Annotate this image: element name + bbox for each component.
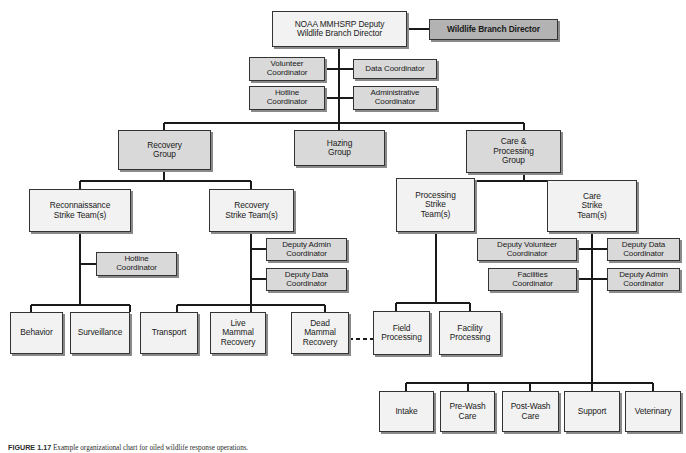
node-label: Recovery Group (147, 141, 182, 160)
node-data-coordinator[interactable]: Data Coordinator (353, 59, 437, 79)
node-deputy-admin-coordinator-care[interactable]: Deputy Admin Coordinator (607, 268, 680, 291)
node-label: Deputy Admin Coordinator (619, 271, 668, 289)
node-label: Care Strike Team(s) (577, 192, 607, 220)
node-facilities-coordinator[interactable]: Facilities Coordinator (488, 268, 577, 291)
node-label: Veterinary (635, 407, 672, 416)
figure-caption-text: Example organizational chart for oiled w… (51, 444, 248, 452)
node-deputy-data-coordinator-recovery[interactable]: Deputy Data Coordinator (266, 268, 347, 291)
node-label: Facilities Coordinator (512, 271, 553, 289)
node-intake[interactable]: Intake (379, 391, 434, 432)
node-label: Care & Processing Group (493, 137, 533, 165)
node-volunteer-coordinator[interactable]: Volunteer Coordinator (249, 57, 325, 81)
node-label: Pre-Wash Care (449, 402, 485, 421)
node-label: Dead Mammal Recovery (303, 319, 338, 347)
node-label: Hazing Group (327, 139, 352, 158)
node-reconnaissance-strike-team[interactable]: Reconnaissance Strike Team(s) (29, 189, 131, 232)
node-post-wash-care[interactable]: Post-Wash Care (502, 391, 559, 432)
node-recovery-group[interactable]: Recovery Group (118, 130, 211, 170)
node-label: Processing Strike Team(s) (415, 191, 455, 219)
figure-number: FIGURE 1.17 (8, 443, 51, 452)
node-label: Deputy Volunteer Coordinator (497, 241, 557, 259)
node-label: Field Processing (381, 324, 421, 343)
node-label: Deputy Data Coordinator (622, 241, 665, 259)
node-recovery-strike-team[interactable]: Recovery Strike Team(s) (209, 189, 294, 232)
node-facility-processing[interactable]: Facility Processing (439, 311, 501, 355)
node-pre-wash-care[interactable]: Pre-Wash Care (440, 391, 495, 432)
node-hotline-coordinator-recon[interactable]: Hotline Coordinator (96, 252, 177, 276)
node-label: Administrative Coordinator (371, 89, 420, 107)
node-label: Wildlife Branch Director (447, 25, 540, 34)
node-label: Surveillance (78, 328, 122, 337)
node-label: Behavior (20, 328, 52, 337)
node-deputy-data-coordinator-care[interactable]: Deputy Data Coordinator (607, 238, 680, 261)
node-support[interactable]: Support (564, 391, 620, 432)
node-transport[interactable]: Transport (140, 312, 198, 354)
node-label: Data Coordinator (365, 65, 424, 74)
figure-caption: FIGURE 1.17 Example organizational chart… (8, 443, 248, 452)
node-live-mammal-recovery[interactable]: Live Mammal Recovery (210, 312, 266, 354)
node-label: Volunteer Coordinator (267, 60, 308, 78)
node-surveillance[interactable]: Surveillance (70, 312, 130, 354)
node-care-strike-team[interactable]: Care Strike Team(s) (547, 180, 637, 232)
node-hotline-coordinator-top[interactable]: Hotline Coordinator (249, 86, 325, 110)
node-field-processing[interactable]: Field Processing (373, 311, 430, 355)
node-administrative-coordinator[interactable]: Administrative Coordinator (353, 86, 437, 110)
node-care-processing-group[interactable]: Care & Processing Group (466, 130, 561, 173)
node-label: Post-Wash Care (511, 402, 551, 421)
node-behavior[interactable]: Behavior (10, 312, 63, 354)
node-label: Deputy Data Coordinator (285, 271, 328, 289)
node-label: Hotline Coordinator (267, 89, 308, 107)
node-noaa-deputy[interactable]: NOAA MMHSRP Deputy Wildlife Branch Direc… (272, 11, 407, 47)
node-label: Recovery Strike Team(s) (225, 201, 277, 220)
node-label: Facility Processing (450, 324, 490, 343)
node-dead-mammal-recovery[interactable]: Dead Mammal Recovery (291, 312, 349, 354)
node-deputy-admin-coordinator-recovery[interactable]: Deputy Admin Coordinator (266, 238, 347, 261)
node-hazing-group[interactable]: Hazing Group (294, 130, 385, 166)
node-label: Transport (152, 328, 187, 337)
node-label: Deputy Admin Coordinator (282, 241, 331, 259)
node-veterinary[interactable]: Veterinary (625, 391, 681, 432)
org-chart-figure: NOAA MMHSRP Deputy Wildlife Branch Direc… (0, 0, 686, 453)
node-label: Live Mammal Recovery (221, 319, 256, 347)
node-deputy-volunteer-coordinator-care[interactable]: Deputy Volunteer Coordinator (477, 238, 577, 261)
node-label: Hotline Coordinator (116, 255, 157, 273)
node-label: NOAA MMHSRP Deputy Wildlife Branch Direc… (295, 20, 385, 39)
node-label: Intake (395, 407, 417, 416)
node-label: Support (578, 407, 607, 416)
node-processing-strike-team[interactable]: Processing Strike Team(s) (396, 178, 475, 232)
node-wildlife-branch-director[interactable]: Wildlife Branch Director (429, 19, 558, 40)
node-label: Reconnaissance Strike Team(s) (50, 201, 111, 220)
